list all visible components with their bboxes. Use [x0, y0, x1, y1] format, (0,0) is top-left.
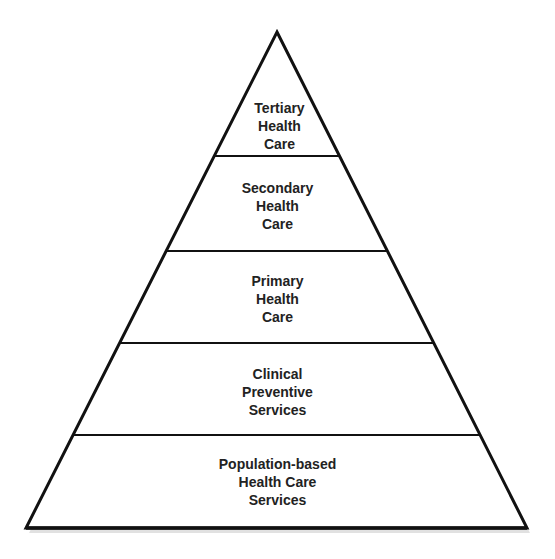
tier-label-line: Care	[0, 215, 555, 233]
tier-label-line: Health Care	[0, 473, 555, 491]
tier-tertiary-health-care: Tertiary Health Care	[2, 99, 555, 153]
tier-label-line: Population-based	[0, 455, 555, 473]
tier-population-based-health-care-services: Population-based Health Care Services	[0, 455, 555, 509]
tier-label-line: Secondary	[0, 179, 555, 197]
tier-label-line: Services	[0, 401, 555, 419]
tier-label-line: Primary	[0, 272, 555, 290]
tier-label-line: Services	[0, 491, 555, 509]
tier-label-line: Health	[0, 197, 555, 215]
tier-label-line: Care	[2, 135, 555, 153]
tier-label-line: Tertiary	[2, 99, 555, 117]
tier-primary-health-care: Primary Health Care	[0, 272, 555, 326]
tier-label-line: Clinical	[0, 365, 555, 383]
tier-clinical-preventive-services: Clinical Preventive Services	[0, 365, 555, 419]
tier-label-line: Health	[0, 290, 555, 308]
tier-label-line: Care	[0, 308, 555, 326]
tier-secondary-health-care: Secondary Health Care	[0, 179, 555, 233]
tier-label-line: Health	[2, 117, 555, 135]
tier-label-line: Preventive	[0, 383, 555, 401]
